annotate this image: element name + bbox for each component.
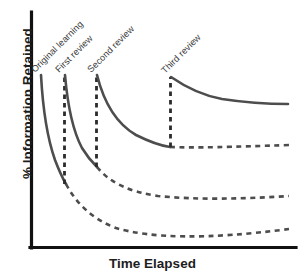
series-original-learning: [41, 75, 289, 236]
curve-dashed-second-review: [170, 145, 289, 147]
series-third-review: [171, 77, 289, 147]
curve-dashed-first-review: [97, 167, 289, 199]
y-axis-label: % Information Retained: [20, 19, 35, 189]
curve-solid-second-review: [97, 75, 170, 147]
curve-dashed-original-learning: [66, 184, 289, 236]
axes-group: [30, 12, 296, 248]
series-first-review: [65, 75, 290, 199]
x-axis-label: Time Elapsed: [0, 256, 305, 271]
curve-solid-third-review: [171, 77, 288, 104]
curve-solid-first-review: [65, 75, 97, 167]
chart-plot-area: [0, 0, 305, 280]
curve-solid-original-learning: [41, 75, 66, 184]
forgetting-curve-chart: Original learning First review Second re…: [0, 0, 305, 280]
